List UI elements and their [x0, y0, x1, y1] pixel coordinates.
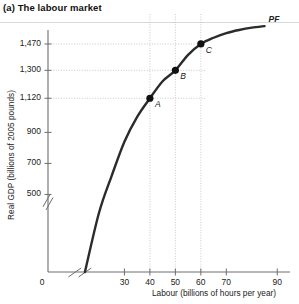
vertical-gridlines: [150, 14, 201, 272]
x-tick-label: 90: [267, 277, 287, 287]
x-tick-label: 70: [216, 277, 236, 287]
x-tick-label: 40: [140, 277, 160, 287]
data-point-b: [172, 67, 179, 74]
origin-label: 0: [34, 277, 50, 287]
y-tick-label: 1,300: [0, 64, 41, 74]
chart-plot-area: [0, 0, 299, 304]
chart-axes: [48, 30, 290, 272]
point-label-a: A: [155, 99, 161, 109]
chart-ticks: [45, 44, 278, 276]
x-tick-label: 60: [191, 277, 211, 287]
point-label-b: B: [180, 71, 186, 81]
production-function-curve: [85, 26, 265, 272]
axis-break-marks: [43, 194, 91, 277]
data-point-c: [197, 40, 204, 47]
y-tick-label: 1,470: [0, 38, 41, 48]
x-tick-label: 50: [165, 277, 185, 287]
x-axis-title: Labour (billions of hours per year): [152, 288, 276, 298]
figure-panel: (a) The labour market 5007009001,1201,30…: [0, 0, 299, 304]
curve-label-pf: PF: [269, 14, 280, 24]
x-tick-label: 30: [114, 277, 134, 287]
data-point-a: [146, 95, 153, 102]
point-label-c: C: [206, 45, 212, 55]
y-axis-title: Real GDP (billions of 2005 pounds): [6, 80, 16, 230]
